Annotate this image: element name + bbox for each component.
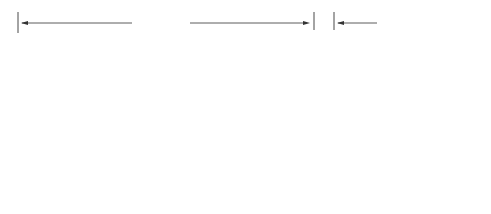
- arrow-left-icon: [21, 21, 28, 25]
- arrow-right-icon: [303, 21, 310, 25]
- generic-section-header: [18, 12, 314, 33]
- countries-section-header: [334, 12, 377, 30]
- arrow-left-icon: [337, 21, 344, 25]
- dns-namespace-diagram: [0, 0, 491, 214]
